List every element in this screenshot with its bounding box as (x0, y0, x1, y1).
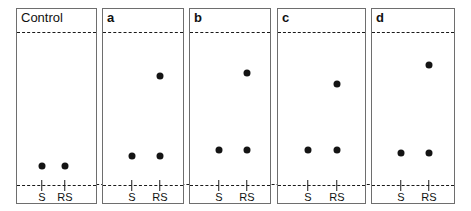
lane-label-s: S (304, 191, 311, 203)
origin-baseline (17, 185, 96, 186)
lane-tick-rs (428, 180, 429, 191)
lane-label-s: S (128, 191, 135, 203)
tlc-spot (426, 62, 433, 69)
lane-label-s: S (38, 191, 45, 203)
solvent-front-line (17, 32, 96, 33)
tlc-plate-figure: ControlSRSaSRSbSRScSRSdSRS (0, 0, 471, 211)
lane-label-rs: RS (421, 191, 436, 203)
origin-baseline (103, 185, 183, 186)
origin-baseline (190, 185, 270, 186)
lane-label-rs: RS (57, 191, 72, 203)
lane-tick-s (218, 180, 219, 191)
tlc-spot (39, 163, 46, 170)
tlc-spot (305, 147, 312, 154)
panel-label: c (282, 10, 289, 25)
tlc-panel-b: bSRS (189, 8, 271, 204)
lane-tick-s (307, 180, 308, 191)
tlc-spot (244, 70, 251, 77)
tlc-panel-d: dSRS (371, 8, 455, 204)
lane-label-s: S (215, 191, 222, 203)
lane-tick-rs (159, 180, 160, 191)
tlc-spot (398, 150, 405, 157)
tlc-spot (426, 150, 433, 157)
tlc-spot (157, 73, 164, 80)
tlc-spot (62, 163, 69, 170)
lane-tick-rs (336, 180, 337, 191)
tlc-spot (334, 81, 341, 88)
lane-label-rs: RS (152, 191, 167, 203)
tlc-spot (244, 147, 251, 154)
panel-label: a (107, 10, 114, 25)
tlc-spot (334, 147, 341, 154)
lane-tick-rs (64, 180, 65, 191)
origin-baseline (278, 185, 365, 186)
solvent-front-line (190, 32, 270, 33)
panel-label: Control (21, 10, 63, 25)
lane-label-rs: RS (239, 191, 254, 203)
tlc-spot (157, 153, 164, 160)
lane-tick-s (400, 180, 401, 191)
panel-label: d (376, 10, 384, 25)
lane-tick-rs (246, 180, 247, 191)
lane-tick-s (131, 180, 132, 191)
lane-label-s: S (397, 191, 404, 203)
solvent-front-line (372, 32, 454, 33)
origin-baseline (372, 185, 454, 186)
solvent-front-line (278, 32, 365, 33)
lane-label-rs: RS (329, 191, 344, 203)
lane-tick-s (41, 180, 42, 191)
solvent-front-line (103, 32, 183, 33)
tlc-spot (216, 147, 223, 154)
tlc-panel-c: cSRS (277, 8, 366, 204)
panel-label: b (194, 10, 202, 25)
tlc-panel-control: ControlSRS (16, 8, 97, 204)
tlc-panel-a: aSRS (102, 8, 184, 204)
tlc-spot (129, 153, 136, 160)
